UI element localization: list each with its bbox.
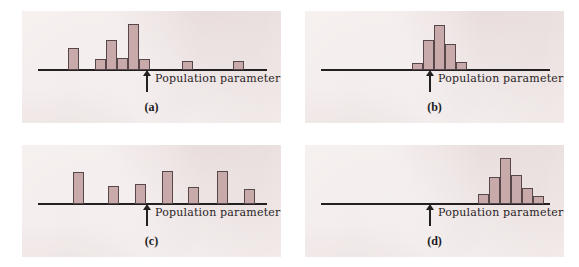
population-parameter-label: Population parameter (155, 207, 280, 219)
sampling-distribution-figure: Population parameter (a) Population para… (0, 0, 579, 267)
panel-caption-d: (d) (305, 234, 564, 249)
histogram-bar (73, 172, 84, 204)
histogram-bar (106, 40, 117, 70)
histogram-bar (162, 171, 173, 204)
histogram-bar (423, 40, 434, 70)
histogram-bar (478, 194, 489, 204)
arrow-stem (146, 74, 148, 92)
arrow-stem (146, 208, 148, 226)
histogram-bar (108, 186, 119, 204)
population-parameter-label: Population parameter (155, 73, 280, 85)
panel-a: Population parameter (a) (22, 11, 281, 123)
histogram-bar (233, 61, 244, 70)
histogram-bar (489, 177, 500, 204)
histogram-bar (244, 189, 255, 204)
panel-caption-c: (c) (22, 234, 281, 249)
histogram-bar (117, 58, 128, 70)
histogram-bar (445, 44, 456, 70)
histogram-bar (456, 62, 467, 70)
arrow-stem (429, 74, 431, 92)
arrow-stem (429, 208, 431, 226)
histogram-bar (128, 24, 139, 70)
panel-d: Population parameter (d) (305, 145, 564, 257)
histogram-bar (182, 61, 193, 70)
histogram-bar (500, 158, 511, 204)
population-parameter-label: Population parameter (438, 73, 563, 85)
panel-c: Population parameter (c) (22, 145, 281, 257)
histogram-bar (188, 187, 199, 204)
panel-b: Population parameter (b) (305, 11, 564, 123)
histogram-bar (68, 48, 79, 70)
histogram-bar (434, 25, 445, 70)
histogram-bar (412, 63, 423, 70)
histogram-bar (533, 196, 544, 204)
population-parameter-label: Population parameter (438, 207, 563, 219)
histogram-bar (139, 59, 150, 70)
panel-caption-b: (b) (305, 100, 564, 115)
histogram-bar (135, 184, 146, 204)
histogram-bar (95, 59, 106, 70)
histogram-bar (217, 171, 228, 204)
panel-caption-a: (a) (22, 100, 281, 115)
histogram-bar (511, 175, 522, 204)
histogram-bar (522, 188, 533, 204)
